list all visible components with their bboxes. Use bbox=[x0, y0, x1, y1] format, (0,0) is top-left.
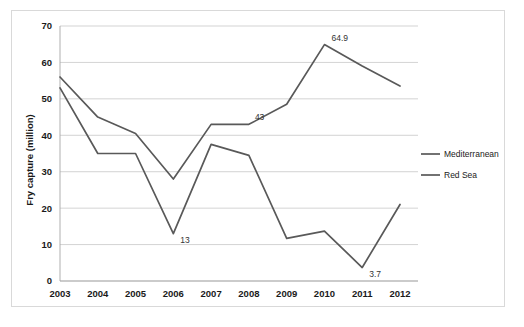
y-axis: 010203040506070 bbox=[41, 20, 60, 286]
x-tick-label: 2004 bbox=[87, 288, 109, 299]
y-tick-label: 20 bbox=[41, 203, 52, 214]
bottom-caption bbox=[330, 319, 520, 327]
y-axis-title: Fry capture (million) bbox=[24, 114, 35, 205]
data-labels: 134364.93.7 bbox=[180, 33, 381, 279]
x-tick-label: 2005 bbox=[125, 288, 147, 299]
y-tick-label: 70 bbox=[41, 20, 52, 31]
x-tick-label: 2007 bbox=[201, 288, 222, 299]
data-label: 64.9 bbox=[331, 33, 348, 43]
x-axis: 2003200420052006200720082009201020112012 bbox=[49, 281, 418, 299]
data-label: 43 bbox=[255, 112, 265, 122]
y-tick-label: 30 bbox=[41, 166, 52, 177]
series-line-mediterranean bbox=[60, 45, 400, 179]
x-tick-label: 2011 bbox=[352, 288, 373, 299]
line-chart: 010203040506070 200320042005200620072008… bbox=[0, 0, 524, 327]
data-label: 3.7 bbox=[369, 269, 381, 279]
series-line-red-sea bbox=[60, 88, 400, 268]
x-tick-label: 2012 bbox=[389, 288, 410, 299]
y-tick-label: 0 bbox=[47, 275, 52, 286]
y-tick-label: 40 bbox=[41, 130, 52, 141]
x-tick-label: 2009 bbox=[276, 288, 297, 299]
y-tick-label: 10 bbox=[41, 239, 52, 250]
data-label: 13 bbox=[180, 235, 190, 245]
x-tick-label: 2003 bbox=[49, 288, 70, 299]
chart-figure: 010203040506070 200320042005200620072008… bbox=[0, 0, 524, 327]
data-series bbox=[60, 45, 400, 268]
x-tick-label: 2010 bbox=[314, 288, 335, 299]
chart-legend: MediterraneanRed Sea bbox=[421, 149, 499, 180]
x-tick-label: 2006 bbox=[163, 288, 184, 299]
legend-label-red-sea: Red Sea bbox=[444, 170, 477, 180]
y-tick-label: 60 bbox=[41, 57, 52, 68]
legend-label-mediterranean: Mediterranean bbox=[444, 149, 499, 159]
x-tick-label: 2008 bbox=[238, 288, 259, 299]
y-tick-label: 50 bbox=[41, 93, 52, 104]
